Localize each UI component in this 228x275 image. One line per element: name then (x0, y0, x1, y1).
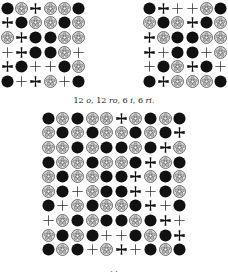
rose-icon (85, 213, 100, 228)
black-circle-icon (129, 228, 144, 243)
rose-icon (57, 45, 71, 60)
black-circle-icon (85, 126, 100, 141)
rose-icon (171, 59, 185, 74)
rose-icon (43, 1, 57, 16)
black-circle-icon (158, 169, 173, 184)
rose-icon (41, 184, 56, 199)
rose-icon (114, 199, 129, 214)
rose-icon (70, 228, 85, 243)
thin-cross-icon (29, 59, 43, 74)
black-circle-icon (143, 140, 158, 155)
black-circle-icon (43, 45, 57, 60)
rose-icon (129, 213, 144, 228)
thin-cross-icon (71, 45, 85, 60)
thin-cross-icon (156, 45, 170, 60)
rose-icon (71, 30, 85, 45)
thin-cross-icon (185, 1, 199, 16)
cross-pattee-icon (158, 140, 173, 155)
black-circle-icon (43, 30, 57, 45)
cross-pattee-icon (129, 184, 144, 199)
black-circle-icon (0, 1, 14, 16)
black-circle-icon (143, 111, 158, 126)
caption-text: . (152, 96, 155, 105)
black-circle-icon (158, 228, 173, 243)
thin-cross-icon (14, 74, 28, 89)
cross-pattee-icon (0, 59, 14, 74)
black-circle-icon (143, 213, 158, 228)
rose-icon (143, 228, 158, 243)
rose-icon (114, 155, 129, 170)
rose-icon (70, 169, 85, 184)
black-circle-icon (29, 30, 43, 45)
black-circle-icon (158, 126, 173, 141)
rose-icon (142, 16, 156, 31)
rose-icon (71, 59, 85, 74)
rose-icon (172, 184, 187, 199)
thin-cross-icon (0, 45, 14, 60)
rose-icon (56, 213, 71, 228)
black-circle-icon (70, 213, 85, 228)
rose-icon (129, 140, 144, 155)
rose-icon (56, 140, 71, 155)
cross-pattee-icon (29, 1, 43, 16)
caption-text: · · (110, 267, 118, 275)
black-circle-icon (142, 74, 156, 89)
rose-icon (158, 111, 173, 126)
cross-pattee-icon (114, 242, 129, 257)
black-circle-icon (56, 126, 71, 141)
caption-bottom-cutoff: · · (0, 267, 228, 275)
thin-cross-icon (85, 242, 100, 257)
rose-icon (56, 242, 71, 257)
rose-icon (99, 111, 114, 126)
black-circle-icon (172, 199, 187, 214)
rose-icon (185, 74, 199, 89)
cross-pattee-icon (172, 126, 187, 141)
rose-icon (85, 140, 100, 155)
black-circle-icon (56, 169, 71, 184)
thin-cross-icon (158, 199, 173, 214)
black-circle-icon (85, 228, 100, 243)
black-circle-icon (56, 184, 71, 199)
rose-icon (99, 199, 114, 214)
black-circle-icon (129, 126, 144, 141)
rose-icon (41, 228, 56, 243)
black-circle-icon (99, 184, 114, 199)
black-circle-icon (29, 45, 43, 60)
black-circle-icon (114, 184, 129, 199)
caption-text: ro (109, 96, 118, 105)
black-circle-icon (172, 155, 187, 170)
rose-icon (29, 16, 43, 31)
rose-icon (143, 169, 158, 184)
rose-icon (57, 30, 71, 45)
caption-text: 12 (74, 96, 87, 105)
black-circle-icon (142, 1, 156, 16)
rose-icon (99, 242, 114, 257)
rose-icon (199, 74, 213, 89)
cross-pattee-icon (156, 1, 170, 16)
rose-icon (158, 242, 173, 257)
black-circle-icon (114, 140, 129, 155)
rose-icon (41, 126, 56, 141)
black-circle-icon (70, 140, 85, 155)
rose-icon (158, 155, 173, 170)
thin-cross-icon (142, 59, 156, 74)
thin-cross-icon (171, 1, 185, 16)
black-circle-icon (57, 59, 71, 74)
pattern-grid-right (142, 1, 228, 89)
black-circle-icon (114, 213, 129, 228)
pattern-grid-left (0, 1, 86, 89)
black-circle-icon (129, 155, 144, 170)
rose-icon (213, 45, 227, 60)
cross-pattee-icon (14, 30, 28, 45)
caption-text: , 6 (133, 96, 146, 105)
black-circle-icon (56, 228, 71, 243)
rose-icon (43, 16, 57, 31)
rose-icon (143, 126, 158, 141)
cross-pattee-icon (14, 45, 28, 60)
caption-text: , 6 (118, 96, 131, 105)
black-circle-icon (41, 155, 56, 170)
black-circle-icon (41, 111, 56, 126)
rose-icon (56, 155, 71, 170)
black-circle-icon (41, 199, 56, 214)
rose-icon (71, 16, 85, 31)
